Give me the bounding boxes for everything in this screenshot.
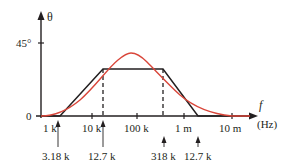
annotation-3.18k: 3.18 k xyxy=(42,150,70,162)
y-axis-label: θ xyxy=(47,10,53,24)
x-tick-label-100k: 100 k xyxy=(124,122,149,134)
x-tick-label-1m: 1 m xyxy=(175,122,192,134)
y-tick-label-45: 45° xyxy=(16,37,31,49)
y-tick-label-0: 0 xyxy=(26,110,32,122)
x-axis-unit: (Hz) xyxy=(257,118,277,131)
annotation-12.7k-low: 12.7 k xyxy=(88,150,116,162)
x-tick-label-10m: 10 m xyxy=(219,122,242,134)
arrow-up-icon xyxy=(196,136,201,143)
y-axis-arrow-icon xyxy=(38,11,45,20)
arrow-up-icon xyxy=(162,136,167,143)
arrow-up-icon xyxy=(101,120,106,127)
bode-phase-plot: θ 45° 0 1 k 10 k 100 k 1 m 10 m f (Hz) 3 xyxy=(0,0,291,166)
annotation-318k: 318 k xyxy=(151,150,176,162)
annotation-12.7k-high: 12.7 k xyxy=(184,150,212,162)
actual-curve xyxy=(41,53,250,116)
x-tick-label-1k: 1 k xyxy=(43,122,57,134)
approx-curve xyxy=(41,69,250,116)
x-axis-label: f xyxy=(259,98,264,112)
x-tick-label-10k: 10 k xyxy=(82,122,102,134)
